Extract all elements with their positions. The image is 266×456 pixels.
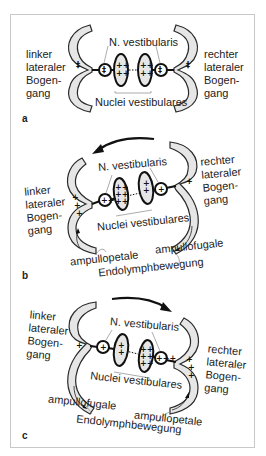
panel-letter-a: a (22, 113, 28, 124)
svg-text:+: + (188, 371, 195, 380)
panel-letter-b: b (22, 270, 28, 281)
left-canal-label-a: linker lateraler Bogen- gang (26, 48, 66, 100)
rotation-arrow-right-icon (112, 298, 166, 308)
nerve-label-a: N. vestibularis (109, 36, 178, 49)
right-canal-label-a: rechter lateraler Bogen- gang (204, 48, 244, 100)
panel-letter-c: c (22, 430, 28, 441)
svg-text:+: + (158, 185, 165, 194)
left-canal-label-c: linker lateraler Bogen- gang (26, 308, 70, 363)
left-canal-charge: ‡ (76, 61, 80, 70)
svg-text:+: + (76, 341, 83, 350)
svg-text:+: + (143, 186, 150, 195)
svg-text:+++: +++ (156, 354, 176, 363)
svg-text:+: + (100, 343, 107, 352)
right-canal-label-c: rechter lateraler Bogen- gang (204, 342, 248, 397)
rotation-arrow-left-icon (98, 138, 154, 150)
svg-text:+: + (118, 348, 125, 357)
left-canal (68, 158, 96, 254)
left-canal (69, 25, 92, 112)
svg-text:+: + (76, 209, 83, 218)
svg-text:‡: ‡ (158, 66, 162, 75)
svg-text:‡: ‡ (102, 66, 106, 75)
right-canal-label-b: rechter lateraler Bogen- gang (200, 152, 244, 207)
svg-text:+: + (186, 177, 193, 186)
nuclei-label-a: Nuclei vestibulares (95, 96, 187, 109)
svg-text:++: ++ (140, 359, 153, 368)
svg-text:++: ++ (115, 197, 128, 206)
svg-text:++: ++ (140, 69, 153, 78)
svg-text:++: ++ (116, 69, 129, 78)
right-canal-charge: ‡ (186, 61, 190, 70)
left-canal-label-b: linker lateraler Bogen- gang (24, 182, 68, 237)
right-canal (170, 142, 198, 254)
